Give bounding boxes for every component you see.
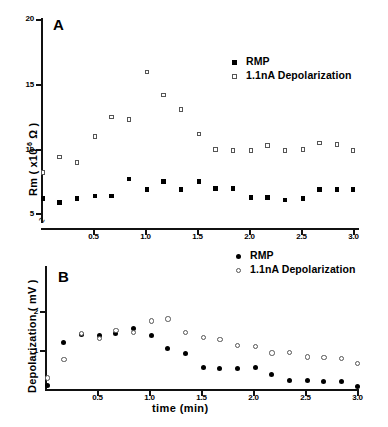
- data-point: [301, 196, 306, 201]
- panel-a-y-axis-line: [41, 18, 43, 223]
- data-point: [231, 148, 236, 153]
- data-point: [321, 379, 326, 384]
- data-point: [231, 186, 236, 191]
- data-point: [335, 142, 340, 147]
- data-point: [351, 187, 356, 192]
- data-point: [249, 195, 254, 200]
- data-point: [45, 383, 50, 388]
- data-point: [61, 357, 66, 362]
- panel-a-axis-break-icon: ∿: [38, 215, 46, 225]
- data-point: [41, 170, 46, 175]
- data-point: [305, 354, 310, 359]
- data-point: [161, 93, 166, 98]
- data-point: [145, 70, 150, 75]
- data-point: [269, 372, 274, 377]
- panel-b-y-ticklabel-2: 2: [22, 307, 38, 316]
- panel-b-x-ticklabel-3.0: 3.0: [343, 393, 372, 402]
- data-point: [265, 195, 270, 200]
- data-point: [283, 198, 288, 203]
- data-point: [197, 179, 202, 184]
- panel-b-x-ticklabel-2.5: 2.5: [291, 393, 320, 402]
- data-point: [213, 186, 218, 191]
- data-point: [305, 378, 310, 383]
- data-point: [317, 187, 322, 192]
- panel-a-legend-label-depolarization: 1.1nA Depolarization: [246, 69, 351, 81]
- data-point: [109, 115, 114, 120]
- data-point: [41, 196, 46, 201]
- data-point: [93, 194, 98, 199]
- panel-a-y-tick-10: [36, 149, 41, 151]
- panel-a-y-tick-5: [36, 213, 41, 215]
- open-square-icon: [232, 74, 237, 79]
- panel-a-plot-area: ∿ 5 10 15 20 0.5 1.0 1.5 2.0 2.5 3.0: [0, 0, 388, 240]
- data-point: [217, 337, 222, 342]
- panel-a: A Rm ( x10-6 Ω ) ∿ 5 10 15 20 0.5: [0, 0, 388, 240]
- data-point: [265, 143, 270, 148]
- data-point: [179, 107, 184, 112]
- panel-b-x-ticklabel-1.0: 1.0: [135, 393, 164, 402]
- panel-b-y-axis-line: [45, 266, 47, 390]
- panel-a-y-tick-20: [36, 19, 41, 21]
- data-point: [113, 328, 118, 333]
- data-point: [339, 356, 344, 361]
- data-point: [45, 375, 50, 380]
- panel-a-y-ticklabel-10: 10: [16, 145, 34, 154]
- data-point: [179, 187, 184, 192]
- data-point: [57, 200, 62, 205]
- panel-a-y-tick-15: [36, 84, 41, 86]
- data-point: [127, 117, 132, 122]
- data-point: [217, 366, 222, 371]
- data-point: [287, 378, 292, 383]
- data-point: [339, 379, 344, 384]
- panel-a-y-ticklabel-5: 5: [16, 209, 34, 218]
- data-point: [97, 336, 102, 341]
- data-point: [355, 361, 360, 366]
- data-point: [165, 316, 170, 321]
- panel-b-legend-label-rmp: RMP: [250, 249, 274, 261]
- data-point: [283, 148, 288, 153]
- data-point: [249, 148, 254, 153]
- data-point: [57, 155, 62, 160]
- data-point: [321, 355, 326, 360]
- panel-b-y-tick-1: [40, 350, 45, 352]
- data-point: [61, 340, 66, 345]
- data-point: [351, 148, 356, 153]
- data-point: [213, 147, 218, 152]
- data-point: [287, 350, 292, 355]
- data-point: [93, 134, 98, 139]
- panel-a-legend-label-rmp: RMP: [246, 55, 270, 67]
- data-point: [235, 366, 240, 371]
- data-point: [355, 384, 360, 389]
- panel-a-y-ticklabel-20: 20: [16, 14, 34, 23]
- data-point: [145, 187, 150, 192]
- data-point: [127, 177, 132, 182]
- data-point: [201, 335, 206, 340]
- data-point: [235, 343, 240, 348]
- data-point: [109, 194, 114, 199]
- data-point: [301, 147, 306, 152]
- data-point: [253, 344, 258, 349]
- data-point: [269, 350, 274, 355]
- data-point: [161, 179, 166, 184]
- data-point: [183, 330, 188, 335]
- panel-b-y-tick-2: [40, 311, 45, 313]
- panel-b-x-ticklabel-0.5: 0.5: [83, 393, 112, 402]
- data-point: [149, 333, 154, 338]
- panel-a-y-ticklabel-15: 15: [16, 80, 34, 89]
- data-point: [165, 346, 170, 351]
- panel-b-x-ticklabel-2.0: 2.0: [239, 393, 268, 402]
- filled-circle-icon: [236, 254, 241, 259]
- data-point: [131, 330, 136, 335]
- panel-b-x-ticklabel-1.5: 1.5: [187, 393, 216, 402]
- panel-b-x-axis-label: time (min): [152, 402, 209, 414]
- data-point: [335, 187, 340, 192]
- data-point: [253, 365, 258, 370]
- data-point: [317, 141, 322, 146]
- data-point: [75, 160, 80, 165]
- data-point: [75, 196, 80, 201]
- figure-container: A Rm ( x10-6 Ω ) ∿ 5 10 15 20 0.5: [0, 0, 388, 427]
- panel-b-y-ticklabel-1: 1: [22, 346, 38, 355]
- data-point: [183, 351, 188, 356]
- filled-square-icon: [232, 60, 237, 65]
- data-point: [149, 318, 154, 323]
